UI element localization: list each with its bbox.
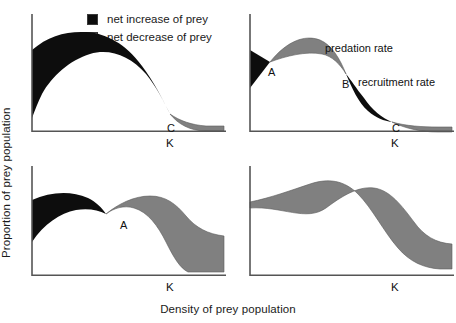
equilibrium-label-b-top-right: B <box>342 78 349 90</box>
equilibrium-label-a-top-right: A <box>268 66 275 78</box>
panel-bottom-right <box>248 166 454 290</box>
panel-top-left <box>30 14 226 146</box>
region-net-increase-a-top-right <box>250 50 270 88</box>
region-net-increase-top-left <box>32 32 170 118</box>
x-axis-label: Density of prey population <box>0 303 456 315</box>
region-net-decrease-bottom-right <box>250 181 452 269</box>
k-label-bottom-left: K <box>166 281 174 293</box>
y-axis-label: Proportion of prey population <box>0 0 18 260</box>
equilibrium-label-c-top-left: C <box>167 122 175 134</box>
annotation-predation-rate: predation rate <box>325 42 393 54</box>
annotation-recruitment-rate: recruitment rate <box>358 76 435 88</box>
x-axis-label-text: Density of prey population <box>160 303 296 315</box>
k-label-top-right: K <box>391 137 399 149</box>
predator-prey-figure: Proportion of prey population Density of… <box>0 0 456 323</box>
equilibrium-label-a-bottom-left: A <box>120 219 127 231</box>
k-label-bottom-right: K <box>391 281 399 293</box>
equilibrium-label-c-top-right: C <box>392 122 400 134</box>
k-label-top-left: K <box>166 137 174 149</box>
y-axis-label-text: Proportion of prey population <box>0 107 12 258</box>
panel-bottom-left <box>30 166 226 290</box>
region-net-decrease-bottom-left <box>106 196 224 272</box>
region-net-decrease-top-left <box>170 114 224 131</box>
region-net-increase-bottom-left <box>32 193 106 242</box>
